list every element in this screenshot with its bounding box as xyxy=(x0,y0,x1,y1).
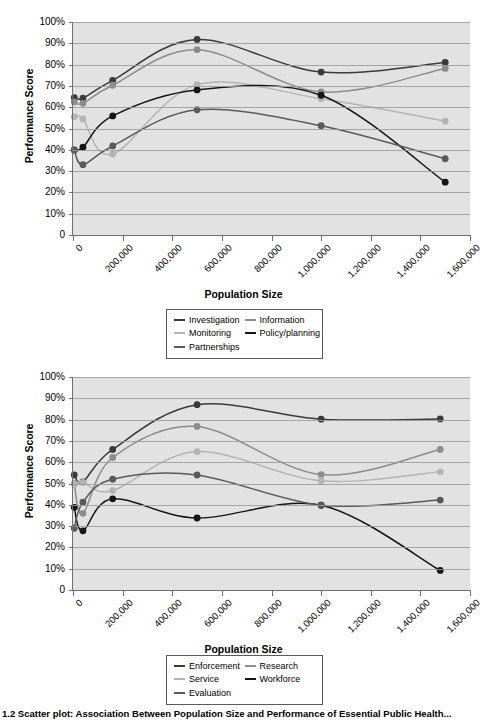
y-tick-mark xyxy=(69,43,73,44)
chart-2-legend: EnforcementResearchServiceWorkforceEvalu… xyxy=(166,655,323,705)
series-line xyxy=(74,85,445,182)
x-tick-mark xyxy=(222,591,223,596)
y-tick-label: 40% xyxy=(21,145,65,155)
x-tick-mark xyxy=(470,591,471,596)
y-tick-label: 0 xyxy=(21,230,65,240)
y-tick-mark xyxy=(69,150,73,151)
y-tick-mark xyxy=(69,398,73,399)
data-point-marker xyxy=(437,446,444,453)
y-tick-mark xyxy=(69,129,73,130)
data-point-marker xyxy=(109,487,116,494)
data-point-marker xyxy=(80,510,87,517)
data-point-marker xyxy=(194,515,201,522)
x-tick-mark xyxy=(420,236,421,241)
legend-item-policy-planning[interactable]: Policy/planning xyxy=(245,327,316,340)
chart-panel-2: Performance Score 010%20%30%40%50%60%70%… xyxy=(0,355,487,700)
legend-item-investigation[interactable]: Investigation xyxy=(174,314,245,327)
chart-2-x-axis-title: Population Size xyxy=(0,643,487,655)
legend-item-service[interactable]: Service xyxy=(174,673,245,686)
y-tick-label: 20% xyxy=(21,542,65,552)
y-tick-mark xyxy=(69,420,73,421)
gridline xyxy=(73,569,470,570)
data-point-marker xyxy=(80,161,87,168)
data-point-marker xyxy=(442,179,449,186)
series-line xyxy=(74,109,445,165)
x-tick-mark xyxy=(420,591,421,596)
series-line xyxy=(74,50,445,105)
y-tick-mark xyxy=(69,107,73,108)
y-tick-label: 10% xyxy=(21,564,65,574)
y-tick-label: 60% xyxy=(21,102,65,112)
data-point-marker xyxy=(109,454,116,461)
y-tick-mark xyxy=(69,192,73,193)
gridline xyxy=(73,150,470,151)
figure-two-line-charts: Performance Score 010%20%30%40%50%60%70%… xyxy=(0,0,487,726)
legend-item-information[interactable]: Information xyxy=(245,314,316,327)
data-point-marker xyxy=(194,401,201,408)
legend-item-enforcement[interactable]: Enforcement xyxy=(174,660,245,673)
chart-1-legend: InvestigationInformationMonitoringPolicy… xyxy=(166,309,323,359)
data-point-marker xyxy=(442,155,449,162)
data-point-marker xyxy=(194,36,201,43)
y-tick-label: 10% xyxy=(21,209,65,219)
legend-label: Policy/planning xyxy=(260,327,321,340)
y-tick-label: 90% xyxy=(21,393,65,403)
legend-line-swatch-icon xyxy=(174,678,185,680)
gridline xyxy=(73,214,470,215)
data-point-marker xyxy=(80,100,87,107)
data-point-marker xyxy=(109,495,116,502)
x-tick-mark xyxy=(272,236,273,241)
gridline xyxy=(73,377,470,378)
gridline xyxy=(73,86,470,87)
legend-item-partnerships[interactable]: Partnerships xyxy=(174,341,245,354)
legend-item-evaluation[interactable]: Evaluation xyxy=(174,687,245,700)
series-line xyxy=(74,451,440,491)
x-tick-mark xyxy=(172,591,173,596)
legend-label: Research xyxy=(260,660,299,673)
gridline xyxy=(73,398,470,399)
legend-line-swatch-icon xyxy=(245,665,256,667)
data-point-marker xyxy=(194,448,201,455)
legend-item-monitoring[interactable]: Monitoring xyxy=(174,327,245,340)
y-tick-mark xyxy=(69,505,73,506)
series-line xyxy=(74,39,445,99)
x-tick-mark xyxy=(321,591,322,596)
series-line xyxy=(74,404,440,483)
legend-label: Service xyxy=(189,673,219,686)
gridline xyxy=(73,65,470,66)
x-tick-mark xyxy=(73,591,74,596)
data-point-marker xyxy=(437,497,444,504)
y-tick-label: 80% xyxy=(21,415,65,425)
y-tick-mark xyxy=(69,547,73,548)
chart-1-plot-area xyxy=(73,22,470,235)
data-point-marker xyxy=(437,468,444,475)
x-tick-mark xyxy=(321,236,322,241)
chart-panel-1: Performance Score 010%20%30%40%50%60%70%… xyxy=(0,0,487,355)
y-tick-mark xyxy=(69,462,73,463)
legend-item-research[interactable]: Research xyxy=(245,660,316,673)
data-point-marker xyxy=(318,471,325,478)
y-tick-label: 20% xyxy=(21,187,65,197)
legend-item-workforce[interactable]: Workforce xyxy=(245,673,316,686)
y-tick-label: 50% xyxy=(21,479,65,489)
legend-line-swatch-icon xyxy=(245,319,256,321)
gridline xyxy=(73,22,470,23)
gridline xyxy=(73,129,470,130)
gridline xyxy=(73,462,470,463)
y-tick-mark xyxy=(69,65,73,66)
y-tick-label: 30% xyxy=(21,166,65,176)
legend-line-swatch-icon xyxy=(174,692,185,694)
data-point-marker xyxy=(80,527,87,534)
data-point-marker xyxy=(194,423,201,430)
legend-label: Evaluation xyxy=(189,687,231,700)
gridline xyxy=(73,547,470,548)
x-tick-mark xyxy=(123,236,124,241)
gridline xyxy=(73,420,470,421)
y-tick-label: 70% xyxy=(21,436,65,446)
legend-line-swatch-icon xyxy=(174,665,185,667)
legend-label: Monitoring xyxy=(189,327,231,340)
y-tick-label: 90% xyxy=(21,38,65,48)
legend-line-swatch-icon xyxy=(174,319,185,321)
chart-2: Performance Score 010%20%30%40%50%60%70%… xyxy=(0,355,487,655)
y-tick-label: 30% xyxy=(21,521,65,531)
